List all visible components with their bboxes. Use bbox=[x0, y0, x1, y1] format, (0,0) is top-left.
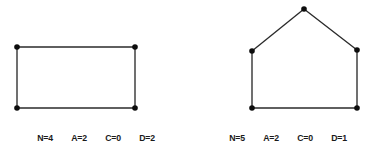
edge-roof-right bbox=[304, 9, 357, 50]
vertex-top-right bbox=[132, 44, 138, 50]
caption-d: D=1 bbox=[323, 132, 354, 144]
caption-c: C=0 bbox=[97, 132, 128, 144]
caption-a: A=2 bbox=[255, 132, 286, 144]
edge-roof-left bbox=[252, 9, 304, 51]
rectangle-diagram bbox=[0, 0, 192, 125]
vertex-shoulder-left bbox=[249, 48, 255, 54]
caption-c: C=0 bbox=[289, 132, 320, 144]
vertex-top-left bbox=[14, 44, 20, 50]
vertex-bottom-right bbox=[354, 105, 360, 111]
figure-pentagon: N=5 A=2 C=0 D=1 bbox=[192, 0, 384, 152]
vertex-shoulder-right bbox=[354, 47, 360, 53]
pentagon-diagram bbox=[192, 0, 384, 125]
caption-n: N=5 bbox=[221, 132, 252, 144]
vertex-bottom-left bbox=[249, 105, 255, 111]
caption-d: D=2 bbox=[131, 132, 162, 144]
vertex-bottom-left bbox=[14, 105, 20, 111]
vertex-bottom-right bbox=[132, 105, 138, 111]
pentagon-caption: N=5 A=2 C=0 D=1 bbox=[192, 130, 384, 146]
rectangle-caption: N=4 A=2 C=0 D=2 bbox=[0, 130, 192, 146]
caption-a: A=2 bbox=[63, 132, 94, 144]
vertex-apex bbox=[301, 6, 307, 12]
figure-rectangle: N=4 A=2 C=0 D=2 bbox=[0, 0, 192, 152]
caption-n: N=4 bbox=[29, 132, 60, 144]
figure-canvas: N=4 A=2 C=0 D=2 N=5 A=2 C=0 D=1 bbox=[0, 0, 384, 152]
